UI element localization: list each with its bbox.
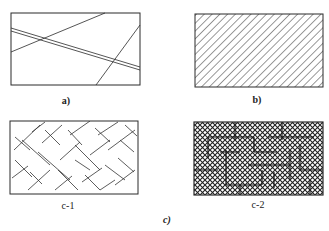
panel-c1 xyxy=(10,121,138,194)
panel-c2 xyxy=(194,122,323,195)
label-c1: c-1 xyxy=(62,200,75,211)
label-c2: c-2 xyxy=(252,199,265,210)
label-c-group: c) xyxy=(163,214,171,225)
crossed-segments xyxy=(12,121,137,190)
panel-b xyxy=(195,14,323,87)
label-b: b) xyxy=(253,94,262,105)
panel-a-frame xyxy=(11,13,140,85)
label-a: a) xyxy=(62,95,70,106)
cross-hatch-fill xyxy=(194,122,323,195)
parallel-hatch-fill xyxy=(195,14,323,87)
figure-canvas xyxy=(0,0,329,231)
panel-a xyxy=(11,13,140,85)
random-lines xyxy=(11,13,140,85)
